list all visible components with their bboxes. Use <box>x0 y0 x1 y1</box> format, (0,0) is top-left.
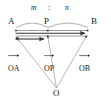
vector-ob-overarrow-icon <box>79 54 90 57</box>
point-a-dot <box>15 30 17 32</box>
point-b-dot <box>87 30 89 32</box>
point-a-label: A <box>8 17 15 26</box>
vector-oa-overarrow-icon <box>8 54 20 57</box>
ratio-right-label: n <box>65 4 69 12</box>
vector-op-label: OP <box>44 54 54 75</box>
point-p-label: P <box>44 17 49 26</box>
vector-ob-text: OB <box>79 64 90 73</box>
ratio-separator-label: : <box>48 4 50 12</box>
point-p-dot <box>47 29 49 31</box>
vector-geometry-figure: m : n A P B O OA OP OB <box>0 0 111 104</box>
ratio-left-label: m <box>31 4 36 12</box>
arc-pb <box>48 23 88 28</box>
vector-oa-label: OA <box>8 54 20 75</box>
vector-op-text: OP <box>44 64 54 73</box>
vector-ob-label: OB <box>79 54 90 75</box>
point-o-label: O <box>53 89 60 98</box>
vector-oa-text: OA <box>8 64 20 73</box>
vector-op-overarrow-icon <box>44 54 54 57</box>
point-b-label: B <box>91 17 97 26</box>
